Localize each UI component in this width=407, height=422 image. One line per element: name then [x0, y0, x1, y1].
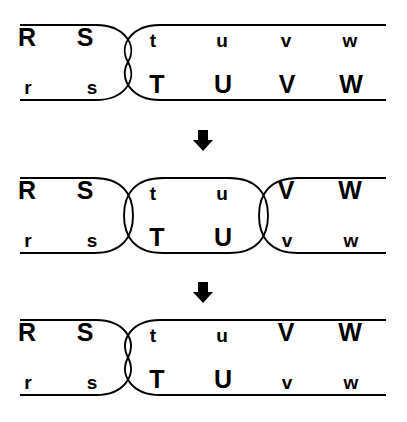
panel-1-crossing-stroke-b: [96, 25, 160, 100]
panel-2-cap-left-right-end: [94, 178, 133, 253]
diagram-canvas: R S t u v w r s T U V W R S t u V W r s …: [0, 0, 407, 422]
panel-2-cap-middle-left-end: [124, 178, 163, 253]
panel-2-cap-middle-right-end: [229, 178, 268, 253]
panel-3-strands: [20, 320, 386, 395]
panel-2-cap-right-left-end: [259, 178, 298, 253]
strand-diagram-svg: [0, 0, 407, 422]
panel-2-strands: [20, 178, 386, 253]
arrow-2-shape: [193, 282, 213, 303]
arrow-1-shape: [193, 130, 213, 151]
panel-1-strands: [20, 25, 386, 100]
panel-3-crossing-stroke-b: [96, 320, 160, 395]
